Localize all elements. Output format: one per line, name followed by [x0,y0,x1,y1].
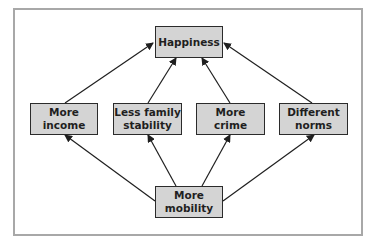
node-happiness-label: Happiness [158,36,220,49]
node-label-line: norms [287,119,340,132]
node-label-line: stability [114,119,181,132]
node-different-norms: Different norms [279,103,348,135]
arrow-crime-to-happiness [202,58,230,103]
node-more-income: More income [30,103,98,135]
node-label-line: Different [287,106,340,119]
node-label-line: crime [214,119,247,132]
node-label-line: income [43,119,86,132]
arrow-mobility-to-income [65,135,155,201]
arrow-income-to-happiness [65,43,153,103]
arrow-mobility-to-family [148,135,176,186]
arrow-family-to-happiness [148,58,176,103]
node-more-crime: More crime [196,103,265,135]
node-happiness: Happiness [155,26,223,58]
node-label-line: mobility [165,202,213,215]
node-label-line: Less family [114,106,181,119]
node-label-line: More [165,189,213,202]
node-more-mobility: More mobility [155,186,223,218]
node-less-family-stability: Less family stability [113,103,182,135]
arrow-mobility-to-crime [202,135,230,186]
arrow-norms-to-happiness [224,43,312,103]
node-label-line: More [43,106,86,119]
arrow-mobility-to-norms [223,135,314,201]
node-label-line: More [214,106,247,119]
